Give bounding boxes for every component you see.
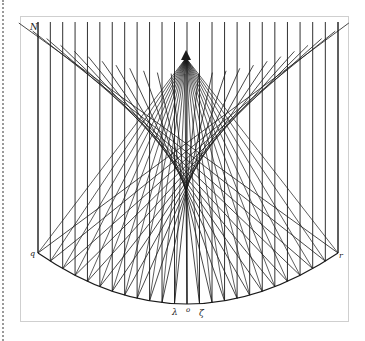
reflecting-arc [38, 253, 338, 304]
label-top-left: N [29, 22, 39, 32]
label-bottom-3: ζ [199, 308, 205, 318]
label-bottom-1: λ [171, 307, 178, 317]
caustic-diagram: N q r λ o ζ [0, 0, 365, 341]
label-left-vertex: q [30, 249, 35, 258]
label-right-vertex: r [339, 251, 344, 260]
label-bottom-2: o [186, 306, 190, 314]
apex-mark [181, 50, 191, 60]
